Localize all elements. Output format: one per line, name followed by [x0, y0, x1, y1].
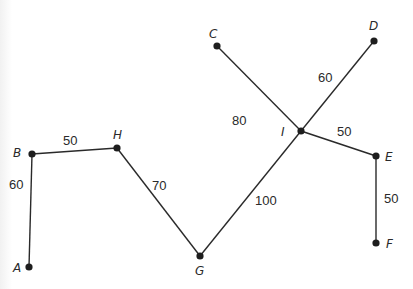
node-h	[113, 144, 120, 151]
edge-a-b	[29, 154, 32, 267]
node-label-f: F	[386, 237, 394, 251]
edge-weight-a-b: 60	[9, 177, 23, 192]
node-i	[297, 127, 304, 134]
edge-h-g	[117, 148, 200, 256]
nodes-layer: ABCDEFGHI	[12, 19, 394, 278]
node-b	[28, 150, 35, 157]
edge-weight-b-h: 50	[63, 133, 77, 148]
edge-weight-h-g: 70	[152, 178, 166, 193]
edge-d-i	[301, 41, 374, 131]
node-label-e: E	[385, 150, 393, 164]
edge-g-i	[200, 131, 301, 256]
node-label-g: G	[195, 264, 204, 278]
edge-b-h	[32, 148, 117, 154]
node-a	[25, 263, 32, 270]
node-f	[372, 239, 379, 246]
edge-weight-c-i: 80	[232, 113, 246, 128]
weighted-graph: 60507010080605050 ABCDEFGHI	[0, 0, 413, 289]
node-label-c: C	[209, 27, 218, 41]
edge-weight-d-i: 60	[318, 70, 332, 85]
node-g	[196, 252, 203, 259]
edge-weights-layer: 60507010080605050	[9, 70, 398, 208]
node-c	[213, 42, 220, 49]
node-e	[372, 152, 379, 159]
edge-weight-e-f: 50	[384, 191, 398, 206]
node-label-d: D	[369, 19, 378, 33]
node-label-a: A	[12, 261, 21, 275]
node-label-i: I	[281, 125, 285, 139]
node-d	[370, 37, 377, 44]
edge-c-i	[217, 46, 301, 131]
edge-weight-g-i: 100	[255, 193, 277, 208]
node-label-b: B	[13, 146, 21, 160]
edge-weight-i-e: 50	[337, 124, 351, 139]
node-label-h: H	[113, 128, 122, 142]
